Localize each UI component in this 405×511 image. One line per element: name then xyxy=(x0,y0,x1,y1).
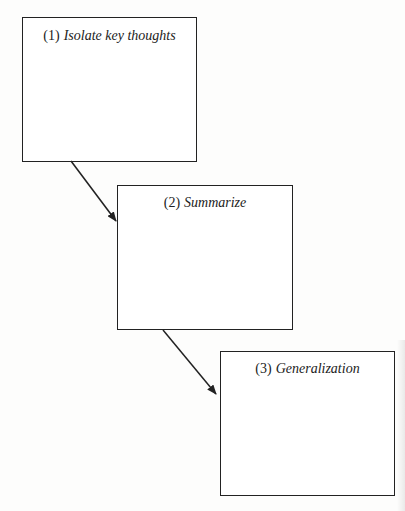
arrow-1-to-2 xyxy=(71,161,116,221)
connector-layer xyxy=(0,0,405,511)
arrow-2-to-3 xyxy=(163,330,216,394)
page-edge-shadow xyxy=(397,340,405,511)
